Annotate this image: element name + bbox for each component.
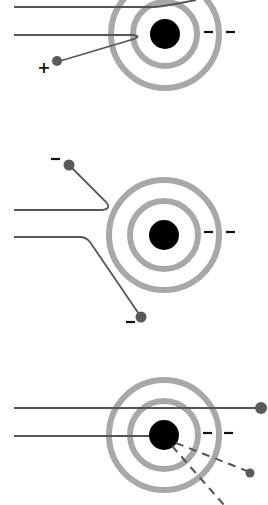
particle-dot-upper (64, 160, 75, 171)
panel-positive-particle: + (14, 0, 235, 88)
particle-dot-lower (136, 312, 147, 323)
atom-deflection-diagram: + (0, 0, 268, 505)
panel-negative-particles (14, 159, 235, 323)
nucleus (150, 19, 180, 49)
track-upper (14, 165, 108, 210)
particle-dot (52, 56, 62, 66)
nucleus (149, 220, 179, 250)
particle-dot-scattered (246, 469, 255, 478)
positive-sign: + (37, 58, 50, 77)
particle-dot-through (255, 402, 267, 414)
track-lower (14, 237, 141, 317)
panel-neutral-particles (14, 380, 267, 505)
nucleus (149, 420, 179, 450)
